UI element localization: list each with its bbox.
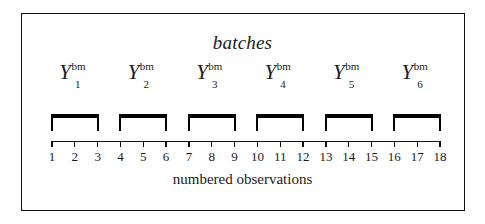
batch-label-symbol: Y <box>265 60 277 84</box>
batch-bracket-row <box>52 114 440 136</box>
batch-label-superscript: bm <box>414 60 428 72</box>
batch-label-subscript: 1 <box>75 78 81 90</box>
axis-caption: numbered observations <box>0 172 485 187</box>
axis-tick <box>325 141 326 147</box>
axis-tick <box>280 141 281 147</box>
batch-bracket <box>51 114 99 131</box>
axis-tick <box>348 141 349 147</box>
axis-tick <box>439 141 440 147</box>
batch-label: Ybm4 <box>248 62 312 85</box>
axis-tick-label: 18 <box>425 150 455 163</box>
batch-label-symbol: Y <box>333 60 345 84</box>
batch-label-superscript: bm <box>208 60 222 72</box>
figure-title: batches <box>0 33 485 52</box>
batch-bracket <box>188 114 236 131</box>
batch-label: Ybm6 <box>385 62 449 85</box>
batch-bracket <box>325 114 373 131</box>
batch-label-superscript: bm <box>71 60 85 72</box>
batch-label-symbol: Y <box>59 60 71 84</box>
batch-label-symbol: Y <box>128 60 140 84</box>
axis-tick <box>302 141 303 147</box>
batch-label-superscript: bm <box>277 60 291 72</box>
batch-label-row: Ybm1Ybm2Ybm3Ybm4Ybm5Ybm6 <box>52 62 440 102</box>
batch-label-superscript: bm <box>345 60 359 72</box>
axis-tick <box>211 141 212 147</box>
axis-tick <box>371 141 372 147</box>
axis-tick <box>97 141 98 147</box>
batch-bracket <box>256 114 304 131</box>
batch-bracket <box>393 114 441 131</box>
axis-tick <box>165 141 166 147</box>
batch-label-superscript: bm <box>140 60 154 72</box>
observation-tick-labels: 123456789101112131415161718 <box>52 150 440 166</box>
batch-label: Ybm3 <box>180 62 244 85</box>
batch-label-symbol: Y <box>196 60 208 84</box>
axis-tick <box>257 141 258 147</box>
batch-label: Ybm5 <box>317 62 381 85</box>
axis-tick <box>394 141 395 147</box>
axis-tick <box>51 141 52 147</box>
batch-label-subscript: 5 <box>349 78 355 90</box>
batch-label-subscript: 4 <box>280 78 286 90</box>
axis-tick <box>74 141 75 147</box>
axis-tick <box>417 141 418 147</box>
batch-label: Ybm2 <box>111 62 175 85</box>
batch-label-subscript: 2 <box>143 78 149 90</box>
batch-label-subscript: 6 <box>417 78 423 90</box>
axis-tick <box>188 141 189 147</box>
axis-tick <box>120 141 121 147</box>
batch-means-diagram: batches Ybm1Ybm2Ybm3Ybm4Ybm5Ybm6 1234567… <box>0 0 485 224</box>
axis-line <box>52 141 440 142</box>
batch-label-symbol: Y <box>402 60 414 84</box>
batch-bracket <box>119 114 167 131</box>
axis-tick <box>143 141 144 147</box>
axis-tick <box>234 141 235 147</box>
batch-label-subscript: 3 <box>212 78 218 90</box>
batch-label: Ybm1 <box>43 62 107 85</box>
